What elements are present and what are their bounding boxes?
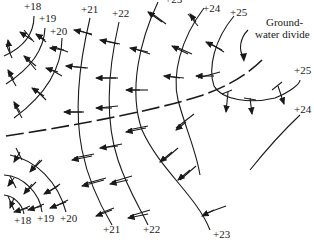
- annotation-line-2: water divide: [255, 28, 310, 40]
- contour-north-22: [109, 22, 148, 225]
- label-bottom-19: +19: [37, 212, 55, 224]
- label-bottom-20: +20: [60, 212, 78, 224]
- contour-east-24: [250, 115, 300, 170]
- contour-north-21: [78, 18, 112, 225]
- groundwater-divide-annotation: Ground- water divide: [255, 16, 310, 40]
- label-top-25: +25: [230, 6, 248, 18]
- annotation-pointer-head: [240, 53, 247, 62]
- contour-north-24: [176, 8, 204, 175]
- contour-south-19: [4, 175, 42, 212]
- potentiometric-diagram: +18 +19 +20 +21 +22 +23 +24 +25 +25 +24 …: [0, 0, 314, 240]
- contour-south-18: [4, 195, 24, 214]
- label-top-21: +21: [81, 3, 98, 15]
- label-right-25: +25: [294, 64, 312, 76]
- labels-top: +18 +19 +20 +21 +22 +23 +24 +25: [24, 0, 248, 37]
- contour-north-20: [14, 38, 62, 118]
- label-bottom-21: +21: [103, 223, 120, 235]
- label-bottom-18: +18: [14, 214, 32, 226]
- label-top-18: +18: [24, 0, 42, 12]
- annotation-line-1: Ground-: [266, 16, 304, 28]
- label-bottom-23: +23: [213, 228, 231, 240]
- labels-bottom: +18 +19 +20 +21 +22 +23: [14, 212, 231, 240]
- flow-arrows: [6, 12, 284, 218]
- label-top-19: +19: [39, 12, 57, 24]
- label-top-23: +23: [165, 0, 183, 5]
- label-top-20: +20: [50, 25, 68, 37]
- label-top-22: +22: [112, 7, 129, 19]
- label-right-24: +24: [294, 103, 312, 115]
- contour-north-23: [136, 2, 210, 230]
- label-top-24: +24: [203, 2, 221, 14]
- label-bottom-22: +22: [143, 223, 160, 235]
- labels-right: +25 +24: [294, 64, 312, 115]
